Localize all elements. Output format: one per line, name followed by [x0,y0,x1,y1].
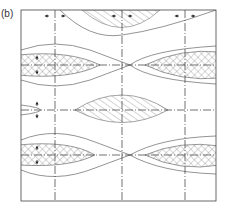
lens-right-lower [145,144,220,167]
lens-top-center [82,10,160,28]
pattern-diagram [0,0,230,207]
lens-center [75,95,168,123]
